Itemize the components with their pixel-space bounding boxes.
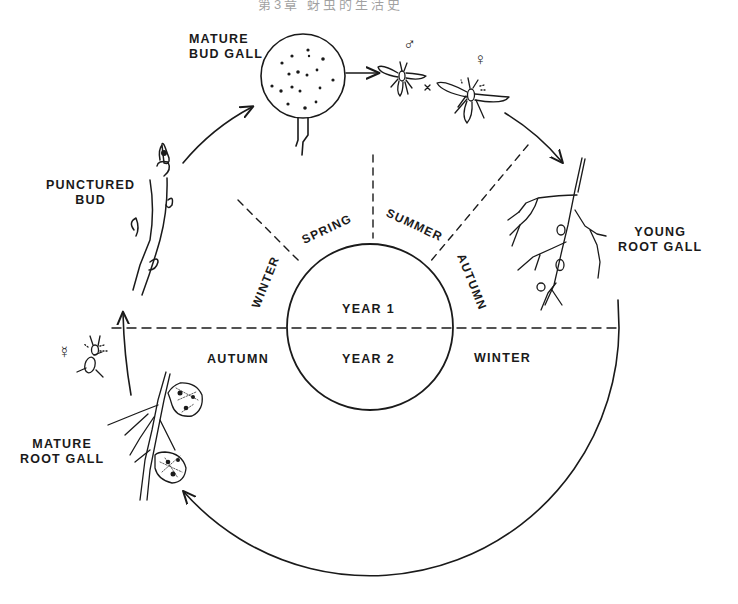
label-mature-root-gall: MATURE ROOT GALL <box>20 437 104 467</box>
arrow-to-young-root-gall <box>505 113 562 162</box>
center-year-circle <box>287 244 453 410</box>
arrow-to-bud-gall <box>183 107 252 163</box>
agamic-symbol-icon: ☿ <box>58 344 71 361</box>
cross-mark <box>425 85 430 90</box>
mature-root-gall-drawing <box>108 372 202 500</box>
season-winter-year2: WINTER <box>474 351 531 365</box>
life-cycle-figure: 第3章 蚜虫的生活史 <box>0 0 738 604</box>
agamic-wasp-drawing <box>77 336 107 377</box>
year-1-label: YEAR 1 <box>342 302 395 316</box>
label-mature-bud-gall: MATURE BUD GALL <box>189 32 263 62</box>
male-symbol-icon: ♂ <box>403 36 416 53</box>
male-wasp-drawing <box>378 62 426 96</box>
female-symbol-icon: ♀ <box>474 51 487 68</box>
female-wasp-drawing <box>437 78 509 123</box>
arrow-to-mature-root-gall <box>184 300 619 576</box>
label-young-root-gall: YOUNG ROOT GALL <box>618 225 702 255</box>
punctured-bud-drawing <box>131 143 172 295</box>
season-autumn-year2: AUTUMN <box>207 352 269 366</box>
year-2-label: YEAR 2 <box>342 352 395 366</box>
arrow-to-punctured-bud <box>123 313 131 395</box>
young-root-gall-drawing <box>508 158 606 310</box>
label-punctured-bud: PUNCTURED BUD <box>46 178 135 208</box>
cycle-arrows <box>123 73 619 576</box>
mature-bud-gall-drawing <box>261 34 345 155</box>
